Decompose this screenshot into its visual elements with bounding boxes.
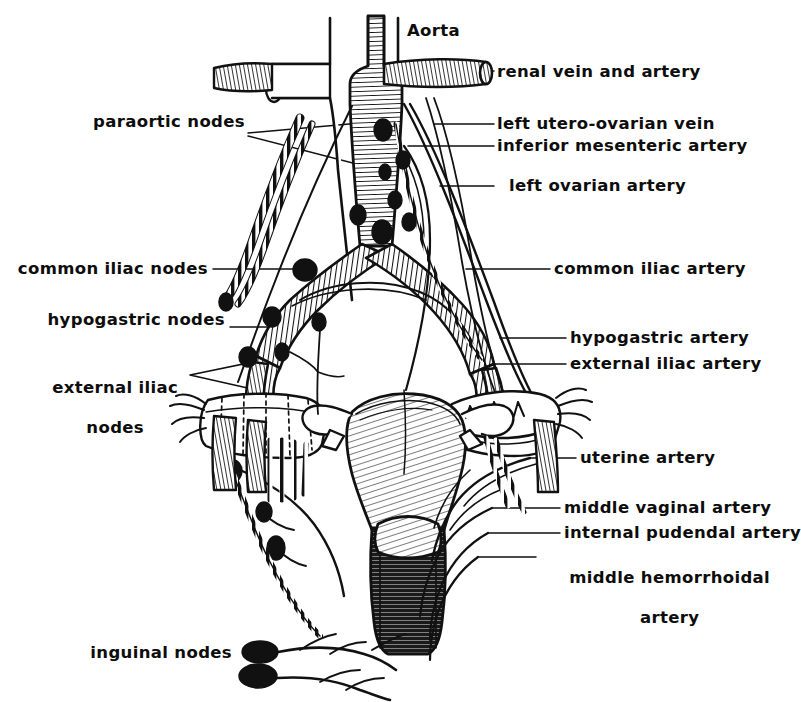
label-uterine-artery: uterine artery	[580, 448, 715, 468]
label-inferior-mesenteric-artery: inferior mesenteric artery	[497, 136, 748, 156]
label-external-iliac-nodes-line2: nodes	[86, 418, 144, 437]
label-left-ovarian-artery: left ovarian artery	[509, 176, 686, 196]
label-common-iliac-nodes: common iliac nodes	[0, 259, 208, 279]
renal-vein	[272, 64, 330, 98]
label-hypogastric-nodes: hypogastric nodes	[0, 310, 225, 330]
label-internal-pudendal-artery: internal pudendal artery	[564, 523, 801, 543]
label-external-iliac-nodes-line1: external iliac	[52, 378, 178, 397]
uterus	[347, 394, 466, 530]
label-left-utero-ovarian-vein: left utero-ovarian vein	[497, 114, 715, 134]
label-external-iliac-artery: external iliac artery	[570, 354, 762, 374]
cervix-vagina	[371, 517, 446, 655]
label-renal-vein-and-artery: renal vein and artery	[497, 62, 701, 82]
label-external-iliac-nodes: external iliac nodes	[18, 358, 188, 459]
label-aorta: Aorta	[407, 21, 460, 41]
label-middle-vaginal-artery: middle vaginal artery	[564, 498, 771, 518]
label-paraortic-nodes: paraortic nodes	[0, 112, 245, 132]
label-middle-hemorrhoidal-artery-line1: middle hemorrhoidal	[569, 568, 770, 587]
label-inguinal-nodes: inguinal nodes	[0, 643, 232, 663]
renal-artery	[384, 59, 492, 87]
label-common-iliac-artery: common iliac artery	[554, 259, 746, 279]
label-middle-hemorrhoidal-artery-line2: artery	[640, 608, 699, 627]
paraortic-lymph-chain	[219, 118, 312, 311]
label-middle-hemorrhoidal-artery: middle hemorrhoidal artery	[540, 548, 775, 649]
label-hypogastric-artery: hypogastric artery	[570, 328, 749, 348]
